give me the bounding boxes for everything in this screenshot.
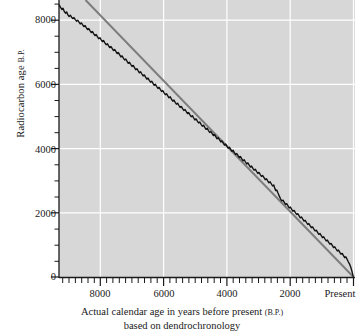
x-axis-caption-line1: Actual calendar age in years before pres… (0, 305, 364, 319)
x-tick-label: 8000 (70, 288, 130, 299)
x-tick-label: 4000 (197, 288, 257, 299)
x-axis-caption: Actual calendar age in years before pres… (0, 305, 364, 332)
x-tick-label: 6000 (134, 288, 194, 299)
x-tick-label-present: Present (316, 288, 364, 299)
x-tick-label: 2000 (260, 288, 320, 299)
x-axis-caption-line2: based on dendrochronology (0, 319, 364, 332)
x-axis-caption-line1-main: Actual calendar age in years before pres… (81, 306, 262, 317)
x-axis-caption-line1-smallcaps: (B.P.) (265, 308, 283, 317)
